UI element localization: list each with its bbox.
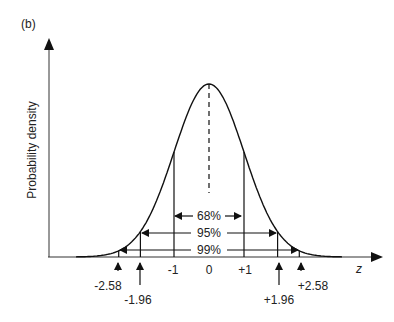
panel-label: (b)	[21, 17, 36, 31]
interval-95: 95%	[142, 226, 276, 240]
tick-label-plus-1: +1	[238, 263, 252, 277]
x-axis-arrowhead-icon	[371, 252, 383, 262]
y-axis-label: Probability density	[25, 101, 39, 198]
critical-value-minus-2-58: -2.58	[94, 279, 122, 293]
interval-68-label: 68%	[197, 209, 221, 223]
y-axis-arrowhead-icon	[44, 38, 54, 50]
tick-label-0: 0	[206, 263, 213, 277]
interval-95-label: 95%	[197, 226, 221, 240]
interval-68: 68%	[175, 209, 241, 223]
critical-value-plus-1-96: +1.96	[264, 293, 295, 307]
critical-value-minus-1-96: -1.96	[124, 293, 152, 307]
interval-99-label: 99%	[197, 243, 221, 257]
critical-value-plus-2-58: +2.58	[298, 279, 329, 293]
x-axis-label: z	[355, 262, 362, 276]
normal-distribution-chart: (b) Probability density z 68% 95% 99% -1…	[0, 0, 394, 322]
tick-label-minus-1: -1	[168, 263, 179, 277]
interval-99: 99%	[120, 243, 298, 257]
